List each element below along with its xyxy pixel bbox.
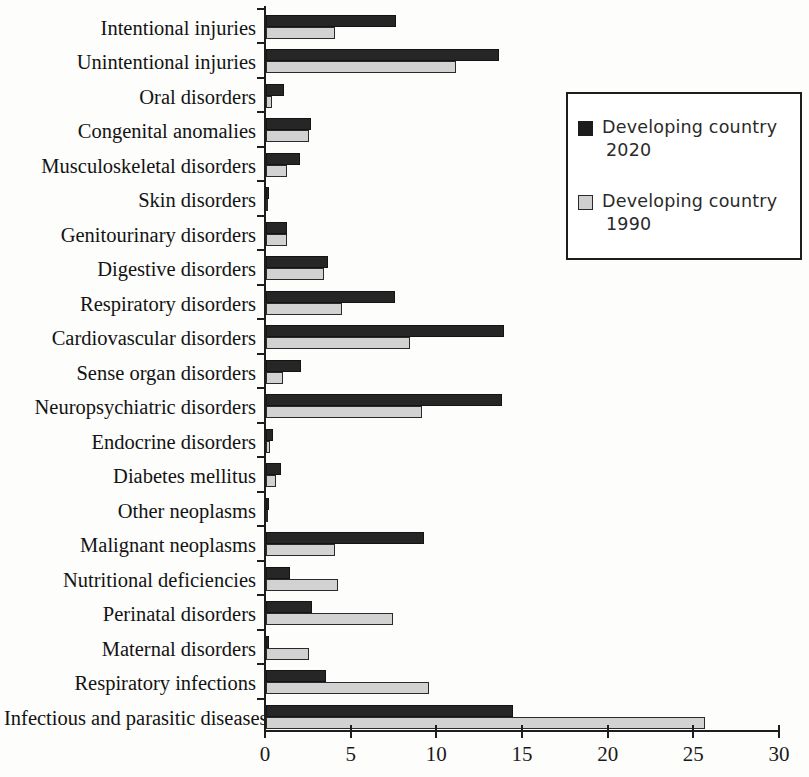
y-axis-tick — [257, 387, 266, 389]
x-axis-tick-label: 25 — [663, 742, 723, 767]
x-axis-tick-label: 15 — [492, 742, 552, 767]
legend: Developing country 2020 Developing count… — [566, 92, 802, 260]
bar-1990 — [266, 648, 309, 660]
y-axis-category-label: Digestive disorders — [4, 258, 256, 280]
bar-2020 — [266, 463, 281, 475]
bar-1990 — [266, 579, 338, 591]
legend-entry-developing-country-2020: Developing country 2020 — [578, 116, 796, 162]
bar-2020 — [266, 394, 502, 406]
bar-1990 — [266, 682, 429, 694]
y-axis-category-label: Unintentional injuries — [4, 51, 256, 73]
y-axis-category-labels: Intentional injuriesUnintentional injuri… — [0, 0, 256, 777]
y-axis-tick — [257, 629, 266, 631]
y-axis-category-label: Genitourinary disorders — [4, 224, 256, 246]
legend-swatch-icon-1990 — [578, 195, 593, 210]
bar-1990 — [266, 268, 324, 280]
y-axis-tick — [257, 215, 266, 217]
x-axis-tick — [264, 725, 266, 738]
x-axis-tick-label: 5 — [321, 742, 381, 767]
bar-2020 — [266, 705, 513, 717]
y-axis-category-label: Infectious and parasitic diseases — [4, 707, 256, 729]
bar-2020 — [266, 256, 328, 268]
x-axis-tick-label: 10 — [406, 742, 466, 767]
y-axis-tick — [257, 594, 266, 596]
y-axis-tick — [257, 422, 266, 424]
legend-label-2020-line1: Developing country — [602, 117, 777, 137]
chart-container: Intentional injuriesUnintentional injuri… — [0, 0, 809, 777]
bar-2020 — [266, 498, 269, 510]
y-axis-category-label: Perinatal disorders — [4, 603, 256, 625]
y-axis-tick — [257, 318, 266, 320]
y-axis-category-label: Other neoplasms — [4, 500, 256, 522]
y-axis-tick — [257, 525, 266, 527]
x-axis-tick — [778, 725, 780, 738]
bar-1990 — [266, 130, 309, 142]
bar-2020 — [266, 670, 326, 682]
legend-label-2020-line2: 2020 — [602, 139, 777, 162]
bar-2020 — [266, 429, 273, 441]
bar-2020 — [266, 84, 284, 96]
legend-label-1990: Developing country 1990 — [602, 190, 777, 236]
bar-2020 — [266, 360, 301, 372]
y-axis-category-label: Intentional injuries — [4, 17, 256, 39]
y-axis-category-label: Endocrine disorders — [4, 431, 256, 453]
bar-2020 — [266, 567, 290, 579]
x-axis-tick — [521, 725, 523, 738]
legend-swatch-icon-2020 — [578, 121, 593, 136]
y-axis-tick — [257, 491, 266, 493]
bar-2020 — [266, 291, 395, 303]
bar-1990 — [266, 303, 342, 315]
bar-2020 — [266, 601, 312, 613]
bar-2020 — [266, 222, 287, 234]
legend-label-2020: Developing country 2020 — [602, 116, 777, 162]
bar-1990 — [266, 165, 287, 177]
y-axis-category-label: Nutritional deficiencies — [4, 569, 256, 591]
y-axis-category-label: Musculoskeletal disorders — [4, 155, 256, 177]
y-axis-tick — [257, 698, 266, 700]
y-axis-tick — [257, 663, 266, 665]
y-axis-tick — [257, 560, 266, 562]
bar-1990 — [266, 372, 283, 384]
bar-2020 — [266, 325, 504, 337]
x-axis-tick-label: 30 — [749, 742, 809, 767]
y-axis-tick — [257, 42, 266, 44]
bar-1990 — [266, 337, 410, 349]
x-axis-tick-label: 0 — [235, 742, 295, 767]
y-axis-category-label: Maternal disorders — [4, 638, 256, 660]
x-axis-tick — [435, 725, 437, 738]
bar-1990 — [266, 61, 456, 73]
y-axis-category-label: Diabetes mellitus — [4, 465, 256, 487]
bar-1990 — [266, 406, 422, 418]
x-axis-tick — [692, 725, 694, 738]
y-axis-category-label: Oral disorders — [4, 86, 256, 108]
bar-2020 — [266, 15, 396, 27]
bar-1990 — [266, 234, 287, 246]
y-axis-category-label: Neuropsychiatric disorders — [4, 396, 256, 418]
x-axis-tick-label: 20 — [578, 742, 638, 767]
legend-label-1990-line2: 1990 — [602, 213, 777, 236]
bar-1990 — [266, 199, 268, 211]
y-axis-tick — [257, 180, 266, 182]
bar-1990 — [266, 544, 335, 556]
y-axis-category-label: Cardiovascular disorders — [4, 327, 256, 349]
bar-1990 — [266, 717, 705, 729]
y-axis-tick — [257, 456, 266, 458]
y-axis-tick — [257, 249, 266, 251]
legend-label-1990-line1: Developing country — [602, 191, 777, 211]
bar-2020 — [266, 118, 311, 130]
bar-1990 — [266, 96, 272, 108]
bar-1990 — [266, 441, 270, 453]
legend-entry-developing-country-1990: Developing country 1990 — [578, 190, 796, 236]
y-axis-category-label: Congenital anomalies — [4, 120, 256, 142]
y-axis-category-label: Malignant neoplasms — [4, 534, 256, 556]
bar-2020 — [266, 49, 499, 61]
y-axis-category-label: Respiratory disorders — [4, 293, 256, 315]
y-axis-category-label: Skin disorders — [4, 189, 256, 211]
bar-2020 — [266, 153, 300, 165]
bar-1990 — [266, 475, 276, 487]
bar-1990 — [266, 27, 335, 39]
y-axis-tick — [257, 8, 266, 10]
bar-2020 — [266, 636, 269, 648]
y-axis-tick — [257, 284, 266, 286]
x-axis-tick — [607, 725, 609, 738]
